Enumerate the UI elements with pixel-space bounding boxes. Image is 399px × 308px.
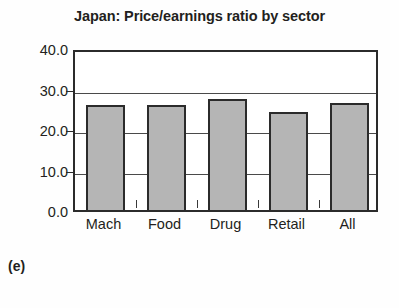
gridline-30.0 (75, 93, 376, 94)
bar-mach (86, 105, 126, 212)
x-tick-mark-2 (197, 200, 198, 208)
y-tick-label-20.0: 20.0 (6, 124, 68, 139)
x-tick-mark-1 (136, 200, 137, 208)
y-tick-mark-30.0 (66, 91, 73, 92)
x-tick-label-retail: Retail (268, 216, 305, 232)
x-tick-label-mach: Mach (86, 216, 121, 232)
plot-area (73, 50, 378, 212)
x-tick-label-all: All (339, 216, 355, 232)
chart-title: Japan: Price/earnings ratio by sector (0, 8, 399, 24)
x-tick-label-food: Food (148, 216, 181, 232)
y-tick-label-0.0: 0.0 (6, 205, 68, 220)
figure-container: Japan: Price/earnings ratio by sector 0.… (0, 0, 399, 308)
bar-retail (269, 112, 309, 212)
x-tick-mark-4 (319, 200, 320, 208)
x-tick-label-drug: Drug (210, 216, 241, 232)
bar-drug (208, 99, 248, 212)
figure-panel-label: (e) (8, 258, 25, 274)
y-tick-label-30.0: 30.0 (6, 83, 68, 98)
bar-food (147, 105, 187, 212)
x-tick-mark-3 (258, 200, 259, 208)
bar-all (330, 103, 370, 212)
y-tick-mark-20.0 (66, 131, 73, 132)
y-tick-label-10.0: 10.0 (6, 164, 68, 179)
y-tick-mark-10.0 (66, 172, 73, 173)
y-tick-label-40.0: 40.0 (6, 43, 68, 58)
